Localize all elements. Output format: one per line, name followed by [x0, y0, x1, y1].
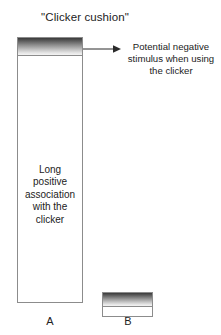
- bar-b-axis-label: B: [113, 315, 143, 327]
- callout-text: Potential negative stimulus when using t…: [121, 41, 221, 77]
- bar-a: Long positive association with the click…: [17, 37, 83, 303]
- bar-a-negative-stimulus-band: [18, 38, 82, 55]
- bar-b-negative-stimulus-band: [103, 293, 152, 306]
- clicker-cushion-diagram: "Clicker cushion" Long positive associat…: [0, 0, 221, 335]
- bar-a-axis-label: A: [35, 315, 65, 327]
- arrow-right-icon: [83, 40, 123, 58]
- page-title: "Clicker cushion": [0, 11, 170, 23]
- bar-a-label: Long positive association with the click…: [18, 164, 82, 226]
- bar-b: [102, 292, 153, 317]
- bar-a-positive-association-body: Long positive association with the click…: [18, 56, 82, 302]
